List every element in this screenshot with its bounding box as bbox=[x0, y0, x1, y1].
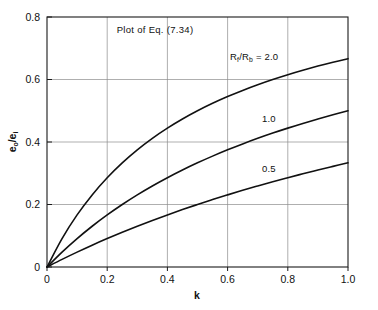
ticklabel-x: 0.6 bbox=[220, 273, 235, 285]
ticklabel-y: 0.8 bbox=[25, 11, 40, 23]
ratio-slash: /R bbox=[239, 51, 249, 62]
y-label-slash-e: /e bbox=[6, 133, 18, 142]
plot-title: Plot of Eq. (7.34) bbox=[117, 24, 194, 35]
curve-label-ratio-1: 1.0 bbox=[262, 113, 276, 124]
ratio-equals-value: = 2.0 bbox=[253, 51, 278, 62]
ticklabel-y: 0 bbox=[34, 261, 40, 273]
ticklabel-y: 0.2 bbox=[25, 198, 40, 210]
chart-svg: 00.20.40.60.81.0 00.20.40.60.8 Plot of E… bbox=[0, 0, 378, 310]
ticklabel-x: 0.8 bbox=[280, 273, 295, 285]
ticklabel-x: 0.4 bbox=[160, 273, 175, 285]
x-axis-title: k bbox=[194, 289, 200, 301]
ticklabel-x: 0.2 bbox=[100, 273, 115, 285]
y-axis-title: eo/ei bbox=[6, 132, 19, 153]
ticklabel-x: 1.0 bbox=[341, 273, 356, 285]
ticklabel-y: 0.4 bbox=[25, 136, 40, 148]
y-label-sub-i: i bbox=[12, 132, 19, 134]
curve-label-ratio-0-5: 0.5 bbox=[262, 163, 276, 174]
y-axis-title-group: eo/ei bbox=[6, 132, 19, 153]
ticklabel-x: 0 bbox=[44, 273, 50, 285]
chart-background bbox=[0, 0, 378, 310]
ticklabel-y: 0.6 bbox=[25, 73, 40, 85]
chart-figure: 00.20.40.60.81.0 00.20.40.60.8 Plot of E… bbox=[0, 0, 378, 310]
ratio-r-numerator: R bbox=[230, 51, 237, 62]
